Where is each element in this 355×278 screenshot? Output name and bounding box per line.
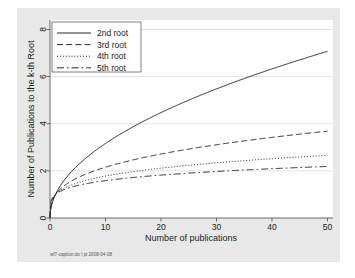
legend-label-2nd-root: 2nd root: [97, 28, 129, 38]
y-tick-label: 2: [38, 168, 48, 173]
y-tick-label: 0: [38, 215, 48, 220]
legend-label-5th-root: 5th root: [97, 63, 126, 73]
y-tick-label: 8: [38, 27, 48, 32]
legend-label-4th-root: 4th root: [97, 51, 126, 61]
y-tick-label: 6: [38, 74, 48, 79]
figure-caption: wf7-caption.do \ pi 2008-04-08: [50, 252, 113, 257]
x-tick-label: 30: [212, 222, 222, 232]
x-tick-label: 10: [101, 222, 111, 232]
chart-svg: 01020304050 02468 Number of publications…: [0, 0, 355, 278]
y-axis-ticks: 02468: [38, 27, 50, 221]
x-tick-label: 40: [267, 222, 277, 232]
x-tick-label: 50: [323, 222, 333, 232]
x-axis-title: Number of publications: [145, 233, 238, 243]
y-axis-title: Number of Publications to the k-th Root: [26, 40, 36, 198]
legend-label-3rd-root: 3rd root: [97, 40, 127, 50]
y-tick-label: 4: [38, 121, 48, 126]
x-tick-label: 0: [48, 222, 53, 232]
x-tick-label: 20: [156, 222, 166, 232]
x-axis-ticks: 01020304050: [48, 218, 333, 232]
chart-legend: 2nd root3rd root4th root5th root: [52, 22, 141, 73]
